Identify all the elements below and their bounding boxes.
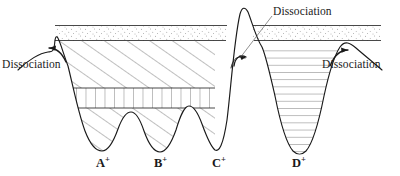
potential-energy-diagram — [0, 0, 400, 176]
well-label-a: A+ — [96, 154, 110, 171]
well-label-b: B+ — [154, 154, 167, 171]
well-label-d: D+ — [292, 154, 306, 171]
well-label-c-text: C — [212, 156, 221, 170]
well-label-c-charge: + — [221, 154, 226, 164]
figure-root: Dissociation Dissociation Dissociation A… — [0, 0, 400, 176]
well-label-d-text: D — [292, 156, 301, 170]
well-label-c: C+ — [212, 154, 226, 171]
well-label-a-charge: + — [105, 154, 110, 164]
well-label-b-charge: + — [162, 154, 167, 164]
dissociation-label-top: Dissociation — [273, 5, 332, 17]
continuum-stipple-band — [55, 26, 381, 41]
left-well-interior — [40, 40, 230, 156]
well-label-d-charge: + — [301, 154, 306, 164]
dissociation-label-left: Dissociation — [2, 58, 61, 70]
dissociation-label-right: Dissociation — [322, 58, 381, 70]
well-label-a-text: A — [96, 156, 105, 170]
